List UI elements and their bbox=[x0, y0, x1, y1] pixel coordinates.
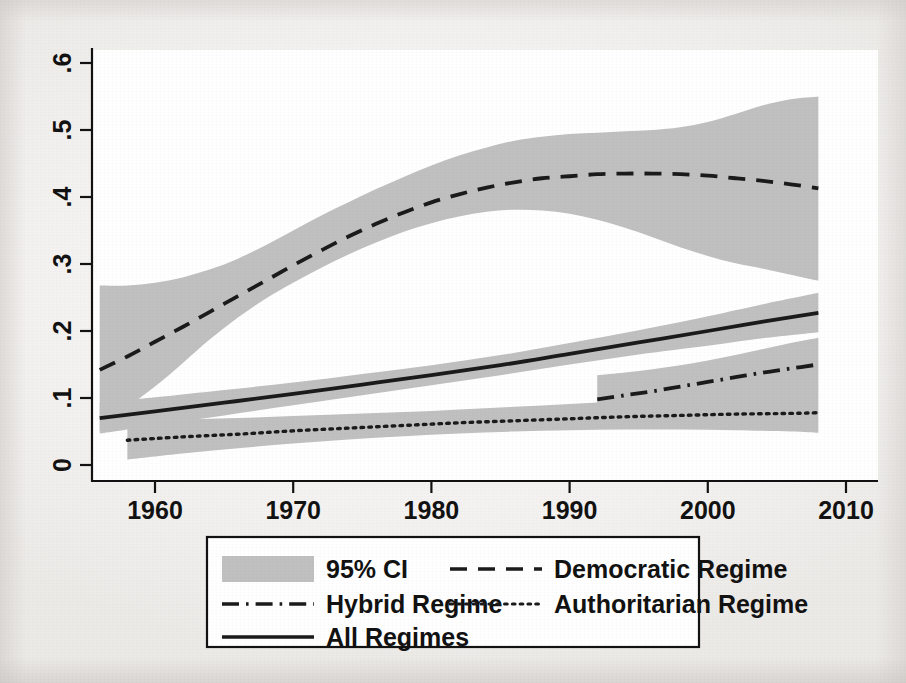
x-tick-label: 1980 bbox=[404, 496, 460, 524]
y-tick-label: 0 bbox=[48, 458, 76, 472]
y-axis-ticks bbox=[80, 63, 92, 465]
figure-canvas: 0.1.2.3.4.5.6 196019701980199020002010 9… bbox=[0, 0, 906, 683]
x-tick-label: 2010 bbox=[818, 496, 874, 524]
y-axis-tick-labels: 0.1.2.3.4.5.6 bbox=[48, 53, 76, 472]
x-tick-label: 2000 bbox=[680, 496, 736, 524]
legend-label: Democratic Regime bbox=[554, 555, 788, 583]
x-tick-label: 1970 bbox=[265, 496, 321, 524]
chart-legend: 95% CIDemocratic RegimeHybrid RegimeAuth… bbox=[207, 537, 808, 651]
y-tick-label: .1 bbox=[48, 387, 76, 408]
legend-label: 95% CI bbox=[326, 555, 408, 583]
y-tick-label: .3 bbox=[48, 254, 76, 275]
y-tick-label: .4 bbox=[48, 186, 76, 207]
x-axis-tick-labels: 196019701980199020002010 bbox=[127, 496, 874, 524]
y-tick-label: .5 bbox=[48, 119, 76, 140]
legend-label: All Regimes bbox=[326, 623, 469, 651]
legend-swatch-ci bbox=[222, 556, 314, 582]
x-axis-ticks bbox=[155, 481, 846, 493]
legend-label: Authoritarian Regime bbox=[554, 590, 808, 618]
x-tick-label: 1990 bbox=[542, 496, 598, 524]
x-tick-label: 1960 bbox=[127, 496, 183, 524]
line-chart: 0.1.2.3.4.5.6 196019701980199020002010 9… bbox=[0, 0, 906, 683]
y-tick-label: .6 bbox=[48, 53, 76, 74]
y-tick-label: .2 bbox=[48, 321, 76, 342]
